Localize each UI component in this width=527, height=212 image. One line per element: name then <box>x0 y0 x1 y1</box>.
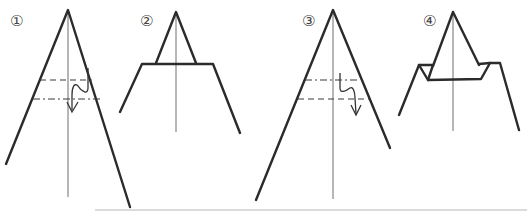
step-3: ③ <box>256 10 390 200</box>
step-1: ① <box>6 10 130 207</box>
fold-arrow-icon <box>72 68 88 110</box>
step-3-label: ③ <box>302 12 315 30</box>
top-point <box>433 12 479 66</box>
step-4-label: ④ <box>423 12 436 30</box>
fold-arrow-icon <box>340 73 356 114</box>
step-2-label: ② <box>140 12 153 30</box>
left-flap <box>399 65 433 115</box>
step-1-label: ① <box>10 12 23 30</box>
right-flap-top <box>479 63 490 64</box>
paper-outline <box>256 10 390 200</box>
step-4: ④ <box>399 12 519 131</box>
origami-diagram: ① ② ③ ④ <box>0 0 527 212</box>
folded-base <box>120 64 240 133</box>
right-flap-and-base <box>419 63 519 130</box>
step-2: ② <box>120 12 240 133</box>
